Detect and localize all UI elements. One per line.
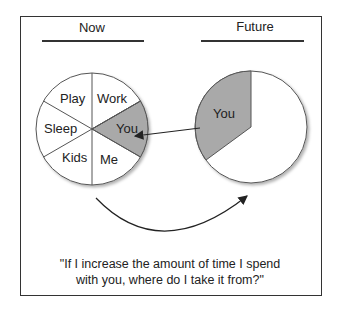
future-pie — [195, 71, 307, 183]
now-pie-label-play: Play — [60, 91, 85, 106]
transition-arrow — [96, 196, 247, 231]
now-pie-label-you: You — [116, 121, 138, 136]
now-pie-label-work: Work — [97, 91, 127, 106]
now-pie-label-sleep: Sleep — [44, 121, 77, 136]
now-pie-label-kids: Kids — [62, 150, 87, 165]
caption-line-1: "If I increase the amount of time I spen… — [30, 256, 310, 272]
now-pie-label-me: Me — [100, 152, 118, 167]
caption-line-2: with you, where do I take it from?" — [30, 272, 310, 288]
caption: "If I increase the amount of time I spen… — [30, 256, 310, 288]
future-pie-label-you: You — [213, 106, 235, 121]
